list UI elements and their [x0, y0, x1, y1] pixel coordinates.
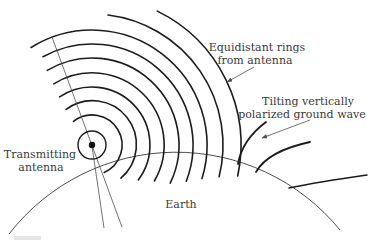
wavefront-ring	[66, 101, 136, 179]
ground-wave-front	[256, 142, 310, 172]
label-earth: Earth	[165, 198, 196, 211]
label-equidistant-rings-line2: from antenna	[217, 54, 293, 67]
label-equidistant-rings-line1: Equidistant rings	[209, 41, 306, 54]
label-transmitting-antenna-line1: Transmitting	[4, 148, 76, 161]
wavefront-ring	[157, 11, 241, 176]
leader-arrow	[262, 120, 310, 138]
cropped-caption-remnant	[14, 236, 41, 240]
antenna-dot	[89, 142, 95, 148]
wavefront-ring	[60, 87, 150, 180]
propagation-diagram: Equidistant rings from antenna Tilting v…	[0, 0, 374, 240]
label-transmitting-antenna-line2: antenna	[18, 161, 64, 174]
wavefront-ring	[74, 115, 123, 172]
ground-wave-front	[238, 122, 266, 164]
label-tilting-wave-line2: polarized ground wave	[238, 108, 366, 121]
diagram-canvas: Equidistant rings from antenna Tilting v…	[0, 0, 374, 240]
ground-wave-front	[289, 175, 367, 188]
label-tilting-wave-line1: Tilting vertically	[262, 95, 355, 108]
leader-arrow	[227, 67, 254, 82]
